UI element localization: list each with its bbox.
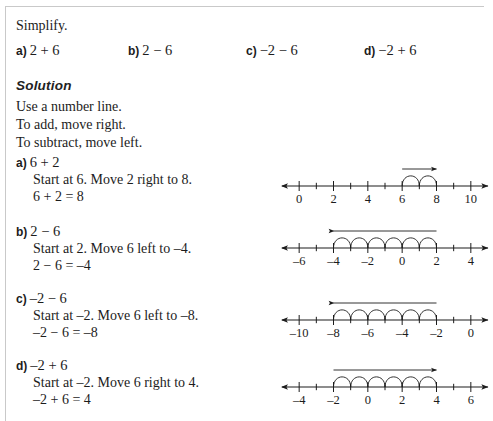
- solution-step-d-expression: –2 + 6: [30, 357, 67, 373]
- solution-heading: Solution: [16, 78, 72, 93]
- svg-text:–2: –2: [429, 326, 443, 340]
- solution-step-c-head: c)–2 − 6: [16, 291, 266, 307]
- page-left-rule: [5, 6, 6, 421]
- numberline-b: –6–4–2024: [274, 214, 493, 270]
- solution-step-d-result: –2 + 6 = 4: [33, 391, 266, 409]
- problem-d-expression: −2 + 6: [378, 42, 416, 58]
- solution-step-b-instruction: Start at 2. Move 6 left to –4.: [33, 240, 266, 258]
- svg-text:0: 0: [468, 326, 474, 340]
- svg-text:–8: –8: [326, 326, 340, 340]
- page-content: Simplify. a)2 + 6 b)2 − 6 c)−2 − 6 d)−2 …: [16, 0, 484, 421]
- svg-text:–10: –10: [289, 326, 309, 340]
- intro-line-2: To add, move right.: [16, 118, 126, 132]
- page-title: Simplify.: [16, 18, 68, 33]
- svg-text:0: 0: [399, 254, 405, 268]
- solution-step-b-expression: 2 − 6: [30, 223, 60, 239]
- problem-c-tag: c): [246, 44, 257, 58]
- solution-step-a: a)6 + 2 Start at 6. Move 2 right to 8. 6…: [16, 155, 266, 206]
- svg-text:2: 2: [399, 393, 405, 407]
- svg-text:–4: –4: [326, 254, 340, 268]
- svg-text:–6: –6: [292, 254, 306, 268]
- intro-line-1: Use a number line.: [16, 100, 122, 114]
- solution-step-b: b)2 − 6 Start at 2. Move 6 left to –4. 2…: [16, 224, 266, 275]
- svg-text:10: 10: [465, 192, 478, 206]
- problem-b-expression: 2 − 6: [142, 42, 172, 58]
- problem-c-expression: −2 − 6: [260, 42, 298, 58]
- svg-text:4: 4: [433, 393, 440, 407]
- problem-b: b)2 − 6: [128, 42, 172, 59]
- solution-step-a-expression: 6 + 2: [30, 154, 60, 170]
- solution-step-d-tag: d): [16, 359, 27, 373]
- svg-text:2: 2: [330, 192, 336, 206]
- problem-a: a)2 + 6: [16, 42, 60, 59]
- svg-text:0: 0: [296, 192, 302, 206]
- svg-text:–2: –2: [361, 254, 375, 268]
- solution-step-c: c)–2 − 6 Start at –2. Move 6 left to –8.…: [16, 291, 266, 342]
- solution-step-a-tag: a): [16, 156, 27, 170]
- intro-line-3: To subtract, move left.: [16, 136, 142, 150]
- svg-text:2: 2: [433, 254, 439, 268]
- svg-text:4: 4: [468, 254, 475, 268]
- solution-step-c-expression: –2 − 6: [30, 290, 67, 306]
- numberline-d: –4–20246: [274, 353, 493, 409]
- svg-text:4: 4: [365, 192, 372, 206]
- solution-step-b-result: 2 − 6 = –4: [33, 257, 266, 275]
- svg-text:6: 6: [399, 192, 405, 206]
- numberline-c: –10–8–6–4–20: [274, 286, 493, 342]
- solution-step-c-tag: c): [16, 292, 27, 306]
- problem-c: c)−2 − 6: [246, 42, 298, 59]
- svg-text:–2: –2: [326, 393, 340, 407]
- solution-step-a-result: 6 + 2 = 8: [33, 188, 266, 206]
- svg-text:0: 0: [365, 393, 371, 407]
- solution-step-c-instruction: Start at –2. Move 6 left to –8.: [33, 307, 266, 325]
- numberline-a: 0246810: [274, 152, 493, 208]
- problem-b-tag: b): [128, 44, 139, 58]
- solution-step-a-head: a)6 + 2: [16, 155, 266, 171]
- solution-step-b-head: b)2 − 6: [16, 224, 266, 240]
- problem-d-tag: d): [364, 44, 375, 58]
- solution-step-b-tag: b): [16, 225, 27, 239]
- problem-a-tag: a): [16, 44, 27, 58]
- svg-text:8: 8: [433, 192, 439, 206]
- solution-step-d-head: d)–2 + 6: [16, 358, 266, 374]
- solution-step-c-result: –2 − 6 = –8: [33, 324, 266, 342]
- problem-a-expression: 2 + 6: [30, 42, 60, 58]
- problem-d: d)−2 + 6: [364, 42, 416, 59]
- svg-text:–4: –4: [395, 326, 409, 340]
- svg-text:–6: –6: [361, 326, 375, 340]
- solution-step-a-instruction: Start at 6. Move 2 right to 8.: [33, 171, 266, 189]
- solution-step-d-instruction: Start at –2. Move 6 right to 4.: [33, 374, 266, 392]
- svg-text:–4: –4: [292, 393, 306, 407]
- problem-row: a)2 + 6 b)2 − 6 c)−2 − 6 d)−2 + 6: [16, 42, 476, 62]
- solution-step-d: d)–2 + 6 Start at –2. Move 6 right to 4.…: [16, 358, 266, 409]
- svg-text:6: 6: [468, 393, 474, 407]
